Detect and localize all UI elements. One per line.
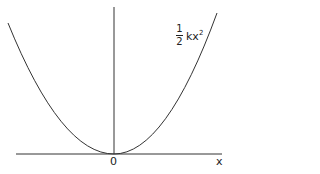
curve-label: 1 2 kx2 [176, 24, 203, 47]
x-axis-label: x [216, 156, 223, 167]
fraction-numerator: 1 [176, 24, 182, 34]
fraction-denominator: 2 [176, 37, 182, 47]
fraction: 1 2 [176, 24, 183, 47]
origin-label: 0 [110, 156, 117, 167]
curve-expression: kx2 [186, 29, 203, 43]
expression-base: kx [186, 30, 199, 43]
expression-exponent: 2 [199, 29, 203, 37]
